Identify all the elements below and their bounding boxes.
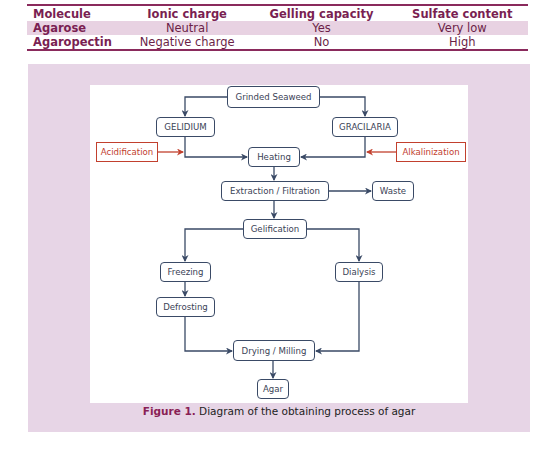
node-grinded-seaweed: Grinded Seaweed <box>227 86 320 108</box>
node-alkalinization: Alkalinization <box>396 142 466 162</box>
node-acidification: Acidification <box>96 142 158 162</box>
node-waste: Waste <box>372 181 414 201</box>
node-extraction-filtration: Extraction / Filtration <box>221 181 329 201</box>
node-drying-milling: Drying / Milling <box>233 340 315 361</box>
figure-caption-text: Diagram of the obtaining process of agar <box>196 405 416 417</box>
figure-label: Figure 1. <box>143 405 196 417</box>
node-heating: Heating <box>248 147 300 167</box>
node-gracilaria: GRACILARIA <box>332 117 398 137</box>
node-dialysis: Dialysis <box>335 262 383 282</box>
node-freezing: Freezing <box>160 262 211 282</box>
node-defrosting: Defrosting <box>156 297 215 317</box>
node-gelification: Gelification <box>243 219 307 239</box>
node-gelidium: GELIDIUM <box>156 117 215 137</box>
figure-caption: Figure 1. Diagram of the obtaining proce… <box>28 405 530 417</box>
node-agar: Agar <box>257 379 289 399</box>
